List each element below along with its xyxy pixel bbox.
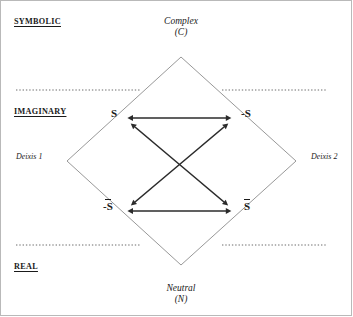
term-s1-glyph: S <box>105 108 123 120</box>
diamond-edge-top-left <box>67 57 181 161</box>
diagram-graphics <box>0 0 353 317</box>
term-s2: -S <box>236 106 256 120</box>
pole-complex-symbol: (C) <box>150 28 212 38</box>
semiotic-square-diagram: SYMBOLIC IMAGINARY REAL Complex (C) Neut… <box>0 0 353 317</box>
pole-complex-name: Complex <box>150 17 212 27</box>
term-not-s2-glyph: S <box>238 201 256 213</box>
relation-arrows <box>133 118 226 211</box>
term-s1: S <box>105 106 123 120</box>
term-not-s1: -S <box>98 199 118 213</box>
diamond-edge-bottom-right <box>181 161 296 265</box>
register-label-imaginary: IMAGINARY <box>14 108 66 117</box>
term-not-s1-glyph: -S <box>98 201 118 213</box>
register-label-real: REAL <box>14 263 38 272</box>
register-label-symbolic: SYMBOLIC <box>14 18 61 27</box>
term-not-s2: S <box>238 199 256 213</box>
diamond-outline <box>67 57 296 265</box>
deixis-2-label: Deixis 2 <box>311 153 337 161</box>
pole-neutral-symbol: (N) <box>150 295 212 305</box>
pole-neutral-name: Neutral <box>150 284 212 294</box>
deixis-1-label: Deixis 1 <box>16 153 42 161</box>
term-s2-glyph: -S <box>236 108 256 120</box>
